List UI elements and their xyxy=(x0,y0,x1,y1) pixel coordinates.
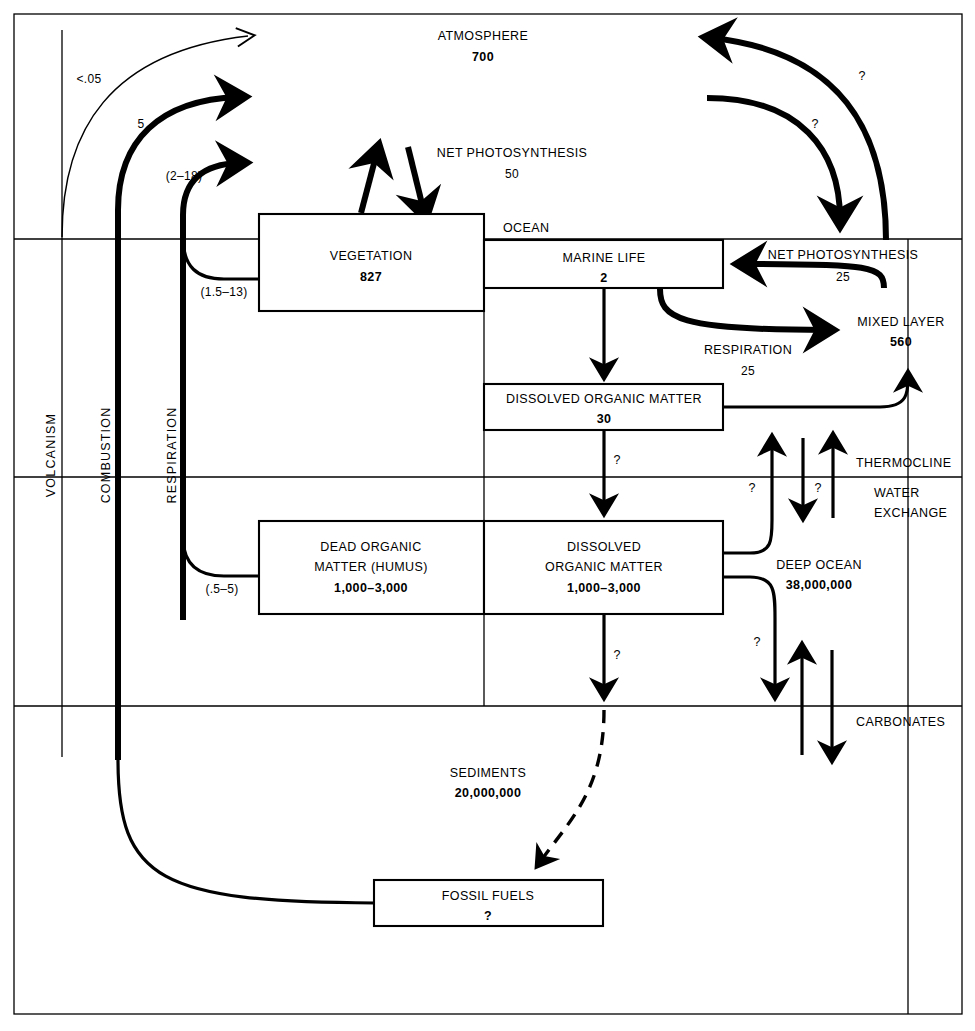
dissolved-organic-matter-upper-label: DISSOLVED ORGANIC MATTER xyxy=(506,392,702,406)
doc-sink-upper-value: ? xyxy=(614,453,621,467)
humus-respiration-branch xyxy=(183,540,259,576)
carbonates-label: CARBONATES xyxy=(856,715,945,729)
dead-organic-matter-label-2: MATTER (HUMUS) xyxy=(314,560,428,574)
mixed-layer-value: 560 xyxy=(890,335,912,349)
vegetation-respiration-branch xyxy=(183,240,259,279)
ocean-net-photosynthesis-amount: 25 xyxy=(836,270,850,284)
volcanism-flow-arrow xyxy=(62,36,248,237)
deep-to-mixed-upwelling-arrow xyxy=(723,442,772,553)
water-exchange-label-2: EXCHANGE xyxy=(874,506,947,520)
deep-ocean-value: 38,000,000 xyxy=(786,578,853,592)
ocean-respiration-amount: 25 xyxy=(741,364,755,378)
humus-respiration-value: (.5–5) xyxy=(205,582,238,596)
respiration-axis-label: RESPIRATION xyxy=(165,406,179,503)
thermocline-label: THERMOCLINE xyxy=(856,456,951,470)
vegetation-label: VEGETATION xyxy=(330,249,413,263)
sediments-label: SEDIMENTS xyxy=(450,766,527,780)
marine-life-label: MARINE LIFE xyxy=(563,251,646,265)
deep-carbonate-flux-value: ? xyxy=(754,635,761,649)
combustion-axis-label: COMBUSTION xyxy=(99,407,113,504)
air-to-sea-flux-value: ? xyxy=(812,117,819,131)
land-net-photosynthesis-arrow xyxy=(408,147,424,212)
ocean-region-label: OCEAN xyxy=(503,221,549,235)
fossil-fuels-value: ? xyxy=(484,909,492,923)
dead-organic-matter-label-1: DEAD ORGANIC xyxy=(320,540,421,554)
ocean-respiration-label: RESPIRATION xyxy=(704,343,792,357)
volcanism-flow-value: <.05 xyxy=(77,72,102,86)
dissolved-organic-matter-deep-label-2: ORGANIC MATTER xyxy=(545,560,663,574)
ocean-net-photosynthesis-arrow xyxy=(744,264,884,288)
sediments-to-fossil-fuels-arrow xyxy=(540,710,604,862)
upwelling-value: ? xyxy=(749,481,756,495)
deep-ocean-label: DEEP OCEAN xyxy=(776,558,862,572)
mixed-layer-label: MIXED LAYER xyxy=(857,315,945,329)
dissolved-organic-matter-upper-value: 30 xyxy=(597,412,612,426)
doc-to-mixed-layer-arrow xyxy=(723,378,908,407)
land-net-photosynthesis-label: NET PHOTOSYNTHESIS xyxy=(437,146,588,160)
vegetation-respiration-value: (1.5–13) xyxy=(200,285,247,299)
marine-life-value: 2 xyxy=(600,271,607,285)
downwelling-value: ? xyxy=(815,481,822,495)
deep-doc-sink-value: ? xyxy=(614,648,621,662)
deep-doc-to-carbonates-arrow xyxy=(723,577,775,692)
dissolved-organic-matter-deep-label-1: DISSOLVED xyxy=(567,540,641,554)
diagram-svg: VOLCANISM COMBUSTION RESPIRATION ATMOSPH… xyxy=(0,0,975,1031)
land-surface-respiration-arrow xyxy=(361,152,377,213)
land-respiration-flow-value: (2–18) xyxy=(166,169,203,183)
land-net-photosynthesis-amount: 50 xyxy=(505,167,519,181)
sediments-value: 20,000,000 xyxy=(455,786,522,800)
combustion-flow-value: 5 xyxy=(138,117,145,131)
sea-to-air-flux-value: ? xyxy=(859,69,866,83)
dead-organic-matter-value: 1,000–3,000 xyxy=(334,581,408,595)
ocean-net-photosynthesis-label: NET PHOTOSYNTHESIS xyxy=(768,248,919,262)
vegetation-value: 827 xyxy=(360,270,382,284)
air-to-sea-flux-arrow xyxy=(707,98,840,219)
land-respiration-flow-arrow xyxy=(183,163,239,620)
dissolved-organic-matter-deep-value: 1,000–3,000 xyxy=(567,581,641,595)
carbon-cycle-diagram: VOLCANISM COMBUSTION RESPIRATION ATMOSPH… xyxy=(0,0,975,1031)
ocean-respiration-arrow xyxy=(660,289,826,330)
volcanism-axis-label: VOLCANISM xyxy=(44,413,58,497)
water-exchange-label-1: WATER xyxy=(874,486,920,500)
diagram-outer-frame xyxy=(14,14,962,1014)
atmosphere-label: ATMOSPHERE xyxy=(438,29,529,43)
fossil-fuels-label: FOSSIL FUELS xyxy=(442,889,535,903)
fossil-fuel-combustion-link xyxy=(118,760,374,903)
atmosphere-value: 700 xyxy=(472,50,494,64)
